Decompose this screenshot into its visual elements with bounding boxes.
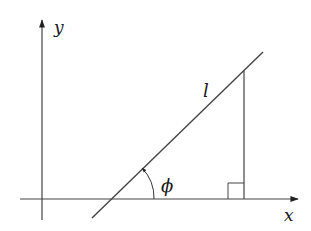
right-angle-marker: [228, 183, 244, 199]
inclined-line: [92, 52, 263, 218]
x-axis-label: x: [284, 205, 294, 225]
y-axis-label: y: [53, 17, 64, 37]
length-label: l: [203, 80, 209, 101]
angle-label: ϕ: [161, 175, 173, 196]
angle-arc: [142, 168, 154, 199]
diagram-canvas: y x l ϕ: [0, 0, 311, 231]
